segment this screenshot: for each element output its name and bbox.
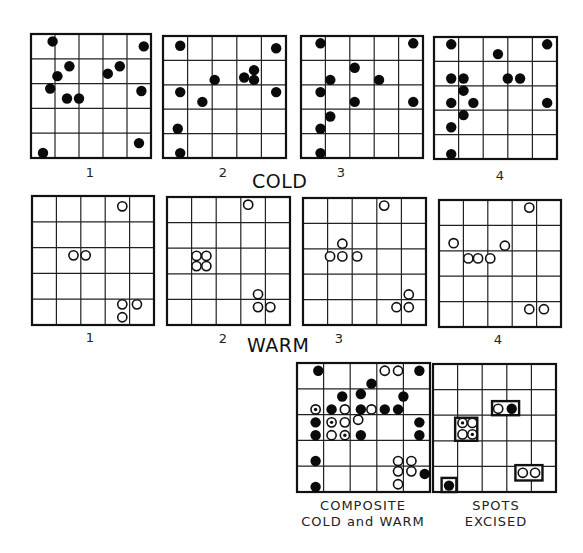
cold-panel-3 — [301, 36, 423, 158]
cold-spot — [507, 404, 517, 414]
cold-spot — [419, 469, 429, 479]
warm-spot — [338, 239, 347, 248]
warm-spot — [494, 404, 503, 413]
cold-spot — [414, 430, 424, 440]
warm-spot — [393, 456, 402, 465]
cold-spot — [310, 456, 320, 466]
cold-spot — [239, 72, 249, 82]
mixed-spot-center — [343, 434, 346, 437]
warm-spot — [404, 290, 413, 299]
excised-caption-line2: EXCISED — [434, 514, 558, 530]
warm-spot — [81, 251, 90, 260]
warm-spot — [118, 300, 127, 309]
cold-spot — [313, 366, 323, 376]
warm-spot — [353, 252, 362, 261]
cold-spot — [414, 366, 424, 376]
warm-spot — [407, 467, 416, 476]
cold-spot — [310, 417, 320, 427]
mixed-spot-center — [314, 408, 317, 411]
cold-spot — [468, 98, 478, 108]
cold-spot — [503, 73, 513, 83]
cold-spot — [103, 68, 113, 78]
warm-spot — [354, 415, 363, 424]
cold-spot — [446, 122, 456, 132]
warm-panel-1-label: 1 — [80, 330, 100, 345]
cold-spot — [493, 49, 503, 59]
cold-spot — [446, 73, 456, 83]
cold-spot — [408, 38, 418, 48]
warm-spot — [118, 202, 127, 211]
cold-spot — [542, 39, 552, 49]
cold-panel-4 — [434, 37, 557, 159]
warm-panel-3 — [303, 198, 426, 325]
warm-spot — [407, 456, 416, 465]
panel-border — [31, 34, 151, 158]
cold-spot — [271, 87, 281, 97]
cold-panel-3-label: 3 — [331, 165, 351, 180]
cold-spot — [315, 124, 325, 134]
warm-spot — [69, 251, 78, 260]
cold-spot — [310, 430, 320, 440]
cold-spot — [62, 93, 72, 103]
spot-grid-figure — [0, 0, 583, 553]
warm-panel-1 — [32, 196, 154, 325]
excised-caption-line1: SPOTS — [434, 498, 558, 514]
cold-spot — [209, 75, 219, 85]
cold-spot — [52, 71, 62, 81]
cold-spot — [414, 417, 424, 427]
excised-panel — [433, 364, 556, 492]
cold-spot — [175, 87, 185, 97]
cold-spot — [47, 36, 57, 46]
warm-spot — [244, 200, 253, 209]
warm-spot — [404, 303, 413, 312]
cold-spot — [38, 148, 48, 158]
warm-spot — [539, 305, 548, 314]
warm-spot — [518, 468, 527, 477]
cold-spot — [408, 97, 418, 107]
cold-spot — [458, 73, 468, 83]
cold-spot — [446, 149, 456, 159]
warm-panel-2 — [167, 197, 290, 325]
cold-spot — [136, 86, 146, 96]
warm-title: WARM — [247, 334, 309, 356]
warm-spot — [202, 262, 211, 271]
warm-spot — [464, 254, 473, 263]
cold-spot — [444, 480, 454, 490]
cold-spot — [366, 378, 376, 388]
cold-spot — [393, 404, 403, 414]
cold-spot — [315, 38, 325, 48]
warm-spot — [392, 303, 401, 312]
warm-panel-4-label: 4 — [488, 332, 508, 347]
cold-spot — [542, 98, 552, 108]
cold-spot — [380, 404, 390, 414]
cold-spot — [337, 391, 347, 401]
cold-spot — [175, 148, 185, 158]
cold-spot — [134, 138, 144, 148]
cold-spot — [356, 404, 366, 414]
cold-spot — [458, 85, 468, 95]
cold-spot — [197, 97, 207, 107]
cold-spot — [249, 75, 259, 85]
cold-panel-4-label: 4 — [490, 168, 510, 183]
warm-spot — [253, 290, 262, 299]
cold-spot — [374, 75, 384, 85]
warm-spot — [253, 302, 262, 311]
warm-panel-3-label: 3 — [329, 331, 349, 346]
mixed-spot-center — [471, 433, 474, 436]
warm-spot — [530, 468, 539, 477]
composite-caption-line1: COMPOSITE — [283, 498, 443, 514]
excised-caption: SPOTS EXCISED — [434, 498, 558, 530]
cold-title: COLD — [252, 170, 307, 192]
warm-spot — [327, 431, 336, 440]
composite-caption: COMPOSITE COLD and WARM — [283, 498, 443, 530]
cold-spot — [356, 430, 366, 440]
warm-spot — [393, 480, 402, 489]
warm-spot — [468, 418, 477, 427]
cold-panel-2-label: 2 — [213, 165, 233, 180]
warm-spot — [380, 366, 389, 375]
warm-spot — [266, 302, 275, 311]
cold-spot — [115, 61, 125, 71]
cold-spot — [45, 83, 55, 93]
warm-spot — [367, 405, 376, 414]
cold-spot — [326, 404, 336, 414]
